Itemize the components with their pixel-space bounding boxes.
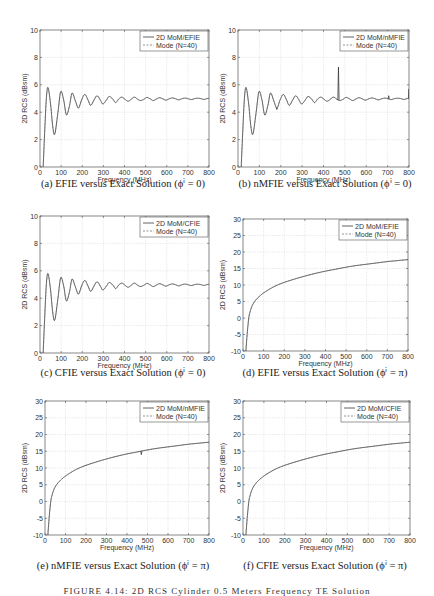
caption-d: (d) EFIE versus Exact Solution (ϕⁱ = π) — [220, 366, 430, 378]
svg-text:700: 700 — [383, 537, 395, 544]
figure-caption: FIGURE 4.14: 2D RCS Cylinder 0.5 Meters … — [0, 586, 434, 596]
legend-item-mom: 2D MoM/CFIE — [357, 405, 402, 412]
y-axis-label: 2D RCS (dBsm) — [219, 443, 227, 493]
caption-f: (f) CFIE versus Exact Solution (ϕⁱ = π) — [220, 559, 430, 571]
svg-text:600: 600 — [362, 537, 374, 544]
svg-text:800: 800 — [404, 537, 416, 544]
caption-b: (b) nMFIE versus Exact Solution (ϕⁱ = 0) — [220, 177, 430, 189]
series-line-mode — [246, 442, 410, 535]
svg-text:-10: -10 — [231, 532, 241, 539]
svg-text:400: 400 — [321, 537, 333, 544]
legend: 2D MoM/CFIEMode (N=40) — [341, 402, 409, 422]
legend-item-mode: Mode (N=40) — [357, 413, 398, 421]
caption-e: (e) nMFIE versus Exact Solution (ϕⁱ = π) — [18, 559, 228, 571]
svg-text:500: 500 — [342, 537, 354, 544]
series-line-mom — [246, 442, 410, 535]
svg-text:-5: -5 — [235, 515, 241, 522]
svg-text:200: 200 — [279, 537, 291, 544]
svg-text:15: 15 — [233, 448, 241, 455]
caption-a: (a) EFIE versus Exact Solution (ϕⁱ = 0) — [18, 177, 228, 189]
svg-text:300: 300 — [300, 537, 312, 544]
svg-text:100: 100 — [258, 537, 270, 544]
x-axis-label: Frequency (MHz) — [299, 544, 353, 552]
caption-c: (c) CFIE versus Exact Solution (ϕⁱ = 0) — [18, 366, 228, 378]
svg-text:5: 5 — [237, 481, 241, 488]
svg-text:0: 0 — [237, 498, 241, 505]
svg-text:20: 20 — [233, 431, 241, 438]
svg-text:25: 25 — [233, 414, 241, 421]
svg-text:30: 30 — [233, 398, 241, 405]
svg-text:10: 10 — [233, 465, 241, 472]
svg-text:0: 0 — [241, 537, 245, 544]
